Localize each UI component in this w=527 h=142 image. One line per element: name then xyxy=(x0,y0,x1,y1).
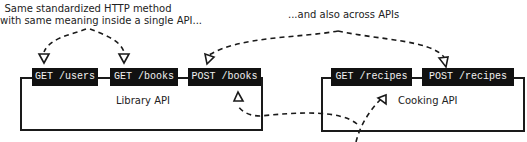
arrowhead-post-books-bottom xyxy=(234,92,243,101)
arrowhead-get-users xyxy=(39,54,49,63)
dashed-arrows xyxy=(0,0,527,142)
arrow-to-get-users xyxy=(44,29,86,52)
arrowhead-get-books xyxy=(119,54,129,63)
arrowhead-post-books-top xyxy=(205,54,214,64)
arrow-to-get-books xyxy=(90,29,124,52)
arrow-to-post-recipes xyxy=(338,31,444,57)
arrow-to-post-books-bottom xyxy=(238,106,357,124)
arrow-to-post-books-top xyxy=(209,31,338,55)
arrowhead-get-recipes xyxy=(378,95,386,104)
arrowhead-post-recipes xyxy=(439,57,448,67)
arrow-to-get-recipes xyxy=(356,99,381,142)
